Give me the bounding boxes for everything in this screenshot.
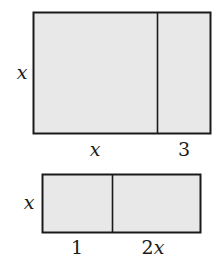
- small-rect-segment-1-label: 1: [71, 236, 83, 258]
- area-model-diagram: x x 3 x 1 2x: [0, 0, 224, 260]
- large-rect-height-label: x: [17, 61, 28, 83]
- small-rectangle-outline: [43, 175, 201, 233]
- small-rectangle: x 1 2x: [24, 175, 201, 259]
- small-rect-segment-2-var: x: [154, 236, 165, 258]
- small-rect-height-label: x: [24, 191, 35, 213]
- large-rect-segment-2-label: 3: [178, 138, 190, 160]
- large-rect-segment-1-label: x: [90, 138, 101, 160]
- small-rect-segment-2-coef: 2: [142, 236, 154, 258]
- small-rect-segment-2-label: 2x: [142, 236, 165, 258]
- large-rectangle: x x 3: [17, 13, 211, 161]
- diagram-svg: x x 3 x 1 2x: [0, 0, 224, 260]
- large-rectangle-outline: [34, 13, 211, 134]
